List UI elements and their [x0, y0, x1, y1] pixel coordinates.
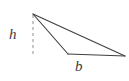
triangle-long-side [33, 14, 125, 56]
triangle-left-side [33, 14, 68, 54]
height-label: h [9, 27, 17, 42]
triangle-base-side [68, 54, 125, 56]
geometry-figure: h b [0, 0, 129, 81]
base-label: b [75, 59, 83, 74]
triangle-diagram-svg [0, 0, 129, 81]
